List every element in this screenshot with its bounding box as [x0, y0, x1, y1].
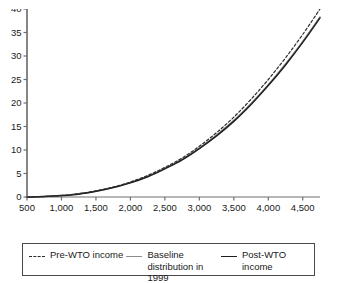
y-tick-label: 20 [11, 97, 22, 108]
legend-item-label: Baseline distribution in 1999 [147, 249, 221, 283]
legend-item-label: Post-WTO income [242, 249, 308, 272]
legend-item[interactable]: Post-WTO income [221, 249, 308, 272]
solid-line-icon [221, 253, 237, 262]
legend-item[interactable]: Baseline distribution in 1999 [126, 249, 221, 283]
y-tick-label: 30 [11, 50, 22, 61]
legend-item-label: Pre-WTO income [50, 249, 123, 261]
solid-line-icon [126, 253, 142, 262]
top-mask [0, 0, 339, 9]
plot-area: 05101520253035405001,0001,5002,0002,5003… [0, 0, 339, 212]
chart-svg: 05101520253035405001,0001,5002,0002,5003… [0, 0, 339, 212]
x-tick-label: 1,000 [50, 202, 74, 212]
legend-item[interactable]: Pre-WTO income [29, 249, 126, 261]
x-tick-label: 3,500 [222, 202, 246, 212]
x-tick-label: 2,500 [153, 202, 177, 212]
x-tick-label: 3,000 [187, 202, 211, 212]
y-tick-label: 5 [16, 168, 21, 179]
y-tick-label: 35 [11, 27, 22, 38]
x-tick-label: 4,000 [256, 202, 280, 212]
dashed-line-icon [29, 253, 45, 262]
x-tick-label: 500 [19, 202, 35, 212]
chart-figure: 05101520253035405001,0001,5002,0002,5003… [0, 0, 339, 283]
series-line [27, 9, 320, 197]
series-line [27, 17, 320, 197]
y-tick-label: 0 [16, 191, 21, 202]
y-tick-label: 25 [11, 74, 22, 85]
series-line [27, 18, 320, 197]
x-tick-label: 4,500 [291, 202, 315, 212]
x-tick-label: 2,000 [119, 202, 143, 212]
y-tick-label: 15 [11, 121, 22, 132]
y-tick-label: 10 [11, 144, 22, 155]
x-tick-label: 1,500 [84, 202, 108, 212]
chart-legend: Pre-WTO incomeBaseline distribution in 1… [22, 243, 315, 276]
